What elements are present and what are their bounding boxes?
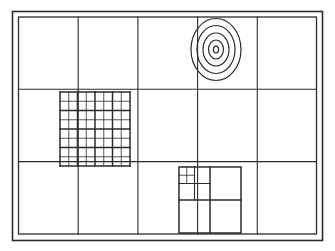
test-pattern-figure <box>0 0 335 251</box>
test-pattern-canvas <box>0 0 335 251</box>
canvas-background <box>0 0 335 251</box>
